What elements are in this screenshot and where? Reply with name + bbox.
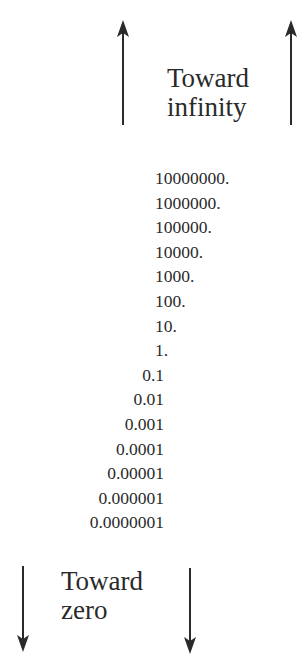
toward-zero-label: Toward zero — [61, 567, 143, 625]
number-row: 100000. — [155, 217, 212, 237]
number-row: 0.1 — [142, 365, 164, 385]
number-row: 10000. — [155, 242, 203, 262]
label-line: zero — [61, 596, 143, 625]
toward-infinity-label: Toward infinity — [167, 64, 249, 122]
number-row: 0.0001 — [116, 439, 164, 459]
number-row: 0.01 — [133, 389, 164, 409]
number-row: 0.0000001 — [90, 512, 164, 532]
number-row: 0.00001 — [107, 463, 164, 483]
number-row: 1000. — [155, 266, 194, 286]
number-row: 10. — [155, 316, 177, 336]
number-row: 1000000. — [155, 193, 221, 213]
number-row: 0.001 — [125, 414, 164, 434]
arrow-down-icon — [183, 566, 197, 656]
label-line: Toward — [167, 64, 249, 93]
arrow-down-icon — [16, 564, 30, 654]
arrow-up-icon — [284, 18, 298, 128]
arrow-up-icon — [116, 18, 130, 128]
label-line: infinity — [167, 93, 249, 122]
label-line: Toward — [61, 567, 143, 596]
number-row: 100. — [155, 291, 186, 311]
number-row: 1. — [155, 340, 168, 360]
number-row: 0.000001 — [98, 488, 164, 508]
number-row: 10000000. — [155, 168, 229, 188]
